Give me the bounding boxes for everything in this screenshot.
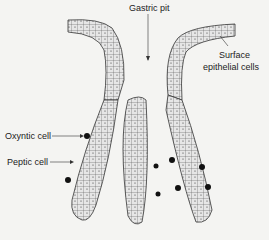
surface-label-line1: Surface [218, 50, 251, 60]
middle-gland-tubule [123, 97, 147, 224]
left-gland-tubule [72, 100, 118, 220]
left-epithelium [68, 20, 124, 100]
gastric-pit-label: Gastric pit [128, 3, 171, 13]
gastric-gland-illustration [0, 0, 269, 240]
peptic-cell-label: Peptic cell [6, 157, 49, 167]
surface-label-line2: epithelial cells [202, 62, 260, 72]
oxyntic-cell-label: Oxyntic cell [4, 131, 52, 141]
